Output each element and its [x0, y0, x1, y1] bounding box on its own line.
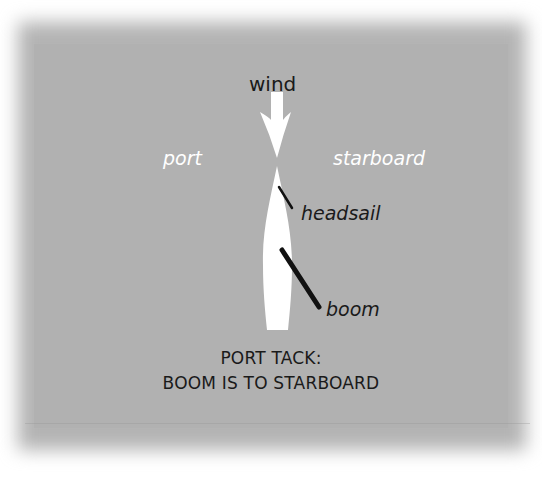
boat-hull-icon	[263, 166, 292, 330]
wind-arrow-icon	[260, 92, 291, 158]
caption-line-2: BOOM IS TO STARBOARD	[0, 373, 542, 393]
caption-line-1: PORT TACK:	[0, 348, 542, 368]
headsail-label: headsail	[301, 202, 381, 224]
boom-label: boom	[326, 298, 380, 320]
wind-label: wind	[249, 72, 296, 96]
starboard-label: starboard	[333, 147, 425, 169]
port-label: port	[163, 147, 202, 169]
